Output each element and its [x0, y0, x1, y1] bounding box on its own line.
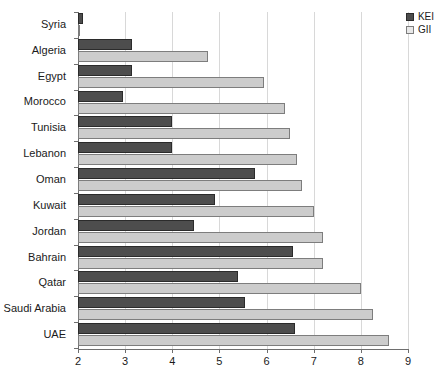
bar-gii-lebanon [78, 154, 297, 165]
x-axis-tick [125, 349, 126, 353]
bar-kei-bahrain [78, 246, 293, 257]
y-axis-label-syria: Syria [41, 18, 66, 30]
x-axis-tick [78, 349, 79, 353]
x-axis-label-4: 4 [162, 355, 182, 367]
legend-label-kei: KEI [418, 10, 434, 23]
legend-item-kei: KEI [406, 10, 434, 23]
y-axis-label-oman: Oman [36, 173, 66, 185]
y-axis-tick [74, 219, 78, 220]
y-axis-label-bahrain: Bahrain [28, 251, 66, 263]
bar-gii-kuwait [78, 206, 314, 217]
bar-gii-syria [78, 25, 80, 36]
y-axis-tick [74, 38, 78, 39]
bar-chart: SyriaAlgeriaEgyptMoroccoTunisiaLebanonOm… [0, 0, 440, 384]
bar-row [78, 220, 408, 246]
y-axis-tick [74, 64, 78, 65]
bar-kei-saudi-arabia [78, 297, 245, 308]
bar-kei-uae [78, 323, 295, 334]
bar-row [78, 116, 408, 142]
plot-area [78, 12, 408, 348]
y-axis-tick [74, 167, 78, 168]
bar-row [78, 65, 408, 91]
bar-row [78, 91, 408, 117]
bar-kei-algeria [78, 39, 132, 50]
bar-gii-saudi-arabia [78, 309, 373, 320]
y-axis-tick [74, 270, 78, 271]
y-axis-label-egypt: Egypt [38, 70, 66, 82]
x-axis-tick [361, 349, 362, 353]
legend-item-gii: GII [406, 23, 434, 36]
bar-gii-oman [78, 180, 302, 191]
y-axis-tick [74, 115, 78, 116]
x-axis-label-6: 6 [257, 355, 277, 367]
x-axis-tick [314, 349, 315, 353]
x-axis-labels: 23456789 [0, 349, 440, 373]
bar-kei-jordan [78, 220, 194, 231]
y-axis-tick [74, 90, 78, 91]
bar-gii-bahrain [78, 258, 323, 269]
y-axis-label-morocco: Morocco [24, 95, 66, 107]
bar-gii-qatar [78, 283, 361, 294]
x-axis-label-3: 3 [115, 355, 135, 367]
y-axis-label-kuwait: Kuwait [33, 199, 66, 211]
bar-gii-egypt [78, 77, 264, 88]
x-axis-label-5: 5 [209, 355, 229, 367]
bar-row [78, 246, 408, 272]
bar-gii-tunisia [78, 128, 290, 139]
outlined-light-square-icon [406, 26, 414, 34]
bar-kei-syria [78, 13, 83, 24]
filled-dark-square-icon [406, 13, 414, 21]
y-axis-tick [74, 322, 78, 323]
y-axis-tick [74, 296, 78, 297]
x-axis-tick [219, 349, 220, 353]
bar-kei-oman [78, 168, 255, 179]
chart-legend: KEI GII [406, 10, 434, 36]
y-axis-labels: SyriaAlgeriaEgyptMoroccoTunisiaLebanonOm… [0, 12, 74, 348]
x-axis-label-9: 9 [398, 355, 418, 367]
y-axis-tick [74, 141, 78, 142]
bar-kei-tunisia [78, 116, 172, 127]
y-axis-label-uae: UAE [43, 328, 66, 340]
bar-kei-egypt [78, 65, 132, 76]
bar-row [78, 168, 408, 194]
y-axis-label-lebanon: Lebanon [23, 147, 66, 159]
x-axis-label-2: 2 [68, 355, 88, 367]
x-axis-label-7: 7 [304, 355, 324, 367]
bar-kei-morocco [78, 91, 123, 102]
bar-gii-algeria [78, 51, 208, 62]
y-axis-label-jordan: Jordan [32, 225, 66, 237]
bar-gii-morocco [78, 103, 285, 114]
bar-row [78, 323, 408, 349]
bar-row [78, 297, 408, 323]
y-axis-label-algeria: Algeria [32, 44, 66, 56]
x-axis-label-8: 8 [351, 355, 371, 367]
bar-kei-kuwait [78, 194, 215, 205]
bar-row [78, 142, 408, 168]
bar-gii-jordan [78, 232, 323, 243]
bar-row [78, 194, 408, 220]
y-axis-tick [74, 193, 78, 194]
y-axis-tick [74, 12, 78, 13]
bar-row [78, 13, 408, 39]
y-axis-label-tunisia: Tunisia [31, 121, 66, 133]
bar-kei-qatar [78, 271, 238, 282]
bar-kei-lebanon [78, 142, 172, 153]
y-axis-label-qatar: Qatar [38, 276, 66, 288]
bar-row [78, 39, 408, 65]
bar-rows [78, 12, 408, 348]
legend-label-gii: GII [418, 23, 431, 36]
y-axis-tick [74, 245, 78, 246]
x-axis-tick [267, 349, 268, 353]
bar-gii-uae [78, 335, 389, 346]
y-axis-label-saudi-arabia: Saudi Arabia [4, 302, 66, 314]
gridline [408, 12, 409, 350]
x-axis-tick [408, 349, 409, 353]
bar-row [78, 271, 408, 297]
x-axis-tick [172, 349, 173, 353]
